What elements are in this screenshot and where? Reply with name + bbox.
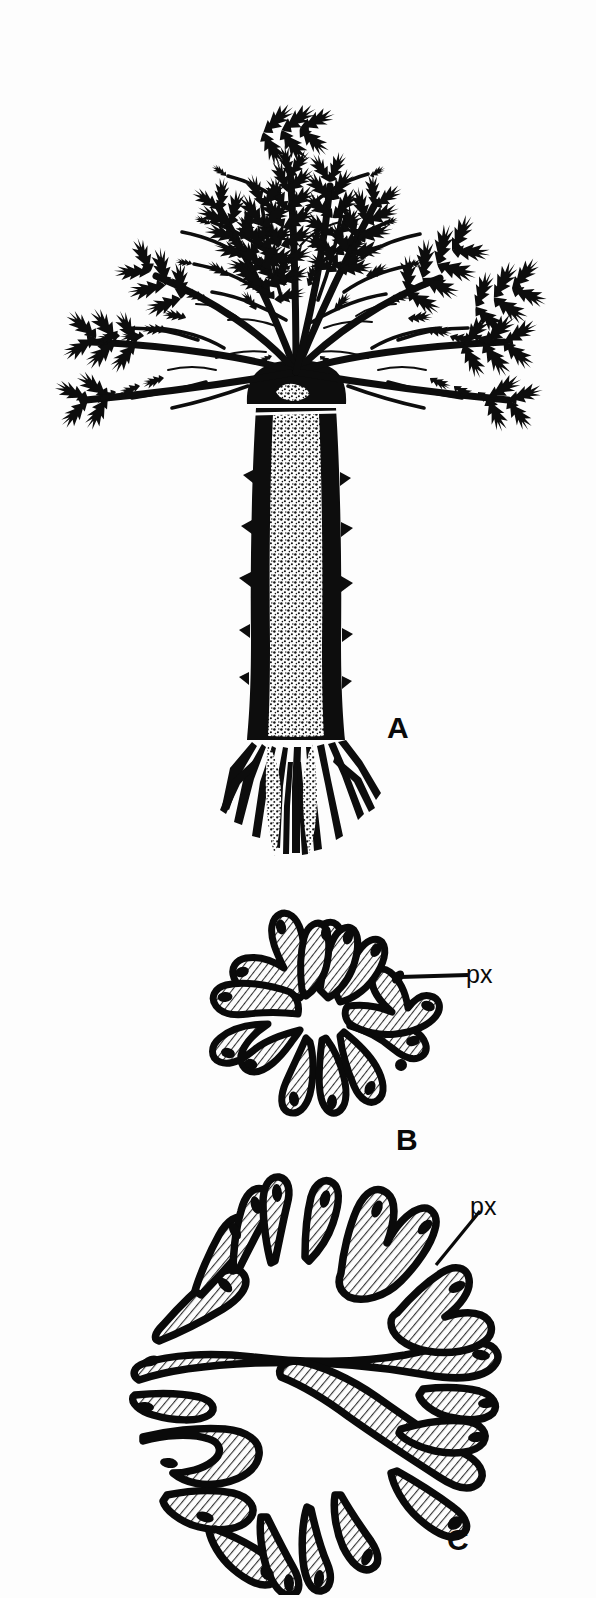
stele-lobes-b — [213, 913, 440, 1113]
panel-letter-c: C — [447, 1525, 469, 1555]
panel-letter-b: B — [396, 1125, 418, 1155]
protoxylem-label-b: px — [466, 962, 492, 987]
panel-letter-a: A — [387, 713, 409, 743]
px-leader-line-b — [398, 968, 470, 982]
stem-group — [239, 408, 353, 742]
protoxylem-label-c: px — [470, 1194, 496, 1219]
figure-plate: A B C px px — [0, 0, 596, 1598]
panel-b-stele-section — [150, 880, 480, 1170]
panel-a-habit — [0, 0, 596, 880]
root-mantle — [220, 740, 381, 858]
